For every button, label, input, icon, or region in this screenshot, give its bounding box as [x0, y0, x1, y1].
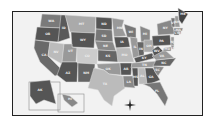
state-az[interactable]: AZ	[57, 62, 78, 82]
state-label: OR	[45, 32, 51, 36]
state-label: NY	[163, 26, 169, 30]
state-ia[interactable]: IA	[114, 37, 130, 48]
state-label: ND	[101, 22, 107, 26]
state-label: RI	[178, 31, 182, 35]
state-label: SC	[155, 68, 160, 72]
state-label: WI	[128, 30, 133, 34]
us-map: WAORCAIDNVMTWYUTAZCONMNDSDNEKSOKTXMNIAMO…	[0, 0, 217, 123]
state-fl[interactable]: FL	[143, 82, 168, 106]
state-label: PA	[159, 39, 164, 43]
state-label: NV	[53, 50, 59, 54]
state-label: VA	[159, 54, 164, 58]
state-label: MT	[79, 22, 85, 26]
state-label: MD	[164, 47, 170, 51]
state-mi[interactable]: MI	[140, 26, 150, 42]
state-label: CO	[85, 54, 90, 58]
state-label: ID	[62, 26, 66, 30]
state-label: NE	[103, 44, 108, 48]
state-label: MS	[133, 75, 139, 79]
state-label: WY	[80, 38, 87, 42]
compass-rose-icon	[124, 99, 136, 111]
state-label: CA	[42, 53, 47, 57]
state-label: IA	[120, 40, 124, 44]
state-label: AL	[140, 74, 145, 78]
state-mo[interactable]: MO	[116, 48, 134, 62]
state-mt[interactable]: MT	[65, 15, 96, 33]
state-label: FL	[155, 89, 159, 93]
state-shape[interactable]	[30, 80, 56, 104]
state-label: KY	[142, 56, 147, 60]
state-label: GA	[148, 75, 154, 79]
state-label: WA	[48, 19, 54, 23]
state-ri[interactable]: RI	[178, 31, 182, 35]
state-co[interactable]: CO	[77, 48, 98, 64]
state-label: IL	[133, 45, 136, 49]
state-label: AK	[38, 88, 43, 92]
state-label: SD	[102, 34, 107, 38]
state-pa[interactable]: PA	[152, 35, 171, 46]
state-md[interactable]: MD	[163, 47, 171, 51]
state-label: TX	[103, 82, 108, 86]
state-label: AR	[124, 67, 129, 71]
state-sd[interactable]: SD	[95, 29, 113, 42]
state-ks[interactable]: KS	[98, 50, 118, 62]
state-label: AZ	[66, 71, 71, 75]
state-nd[interactable]: ND	[96, 17, 112, 30]
state-wa[interactable]: WA	[40, 14, 62, 28]
state-label: KS	[106, 54, 111, 58]
state-label: WV	[154, 49, 161, 53]
state-wy[interactable]: WY	[71, 32, 95, 48]
state-label: MO	[122, 53, 128, 57]
state-label: NJ	[171, 40, 175, 44]
state-label: OH	[146, 44, 152, 48]
state-ne[interactable]: NE	[95, 41, 116, 51]
state-hi[interactable]: HI	[62, 94, 78, 107]
state-label: TN	[142, 63, 147, 67]
state-label: NC	[161, 61, 167, 65]
state-label: UT	[68, 49, 74, 53]
state-ak[interactable]: AK	[30, 80, 56, 104]
state-label: MI	[143, 32, 147, 36]
state-shape[interactable]	[143, 82, 168, 106]
state-label: MN	[117, 26, 123, 30]
state-label: HI	[68, 97, 72, 101]
state-label: ME	[180, 12, 185, 16]
state-label: OK	[106, 67, 112, 71]
state-ar[interactable]: AR	[120, 63, 132, 75]
state-label: NM	[83, 71, 89, 75]
state-mn[interactable]: MN	[112, 18, 126, 37]
state-label: LA	[127, 80, 132, 84]
state-or[interactable]: OR	[35, 27, 61, 42]
state-label: IN	[139, 47, 143, 51]
